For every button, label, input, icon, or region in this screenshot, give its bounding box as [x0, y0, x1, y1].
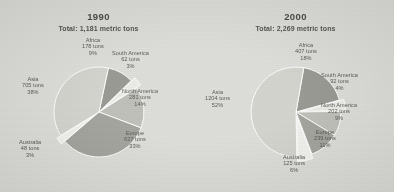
pie-label-europe-2000: Europe 239 tons 11% [314, 129, 336, 148]
pie-label-australia-1990: Australia 48 tons 3% [19, 139, 41, 158]
label-tons: 627 tons [124, 136, 146, 142]
pie-label-europe-1990: Europe 627 tons 33% [124, 130, 146, 149]
chart-title-1990: 1990 [0, 11, 197, 22]
label-tons: 705 tons [22, 82, 44, 88]
pie-label-north-america-2000: North America 202 tons 9% [321, 102, 357, 121]
pie-chart-1990 [45, 58, 153, 166]
label-percent: 11% [314, 142, 336, 148]
label-percent: 6% [283, 167, 305, 173]
label-percent: 18% [295, 55, 317, 61]
label-percent: 9% [82, 50, 104, 56]
pie-label-asia-2000: Asia 1204 tons 52% [205, 89, 230, 108]
pie-label-north-america-1990: North America 281 tons 14% [122, 88, 158, 107]
label-percent: 3% [112, 63, 149, 69]
label-percent: 38% [22, 89, 44, 95]
pie-label-south-america-2000: South America 92 tons 4% [321, 72, 358, 91]
pie-panel-2000: 2000 Total: 2,269 metric tons Africa 407… [197, 0, 394, 192]
label-tons: 1204 tons [205, 95, 230, 101]
chart-title-2000: 2000 [197, 11, 394, 22]
pie-label-africa-1990: Africa 178 tons 9% [82, 37, 104, 56]
label-percent: 4% [321, 85, 358, 91]
pie-label-africa-2000: Africa 407 tons 18% [295, 42, 317, 61]
label-tons: 48 tons [19, 145, 41, 151]
two-pie-figure: 1990 Total: 1,181 metric tons Africa 178… [0, 0, 394, 192]
label-tons: 239 tons [314, 135, 336, 141]
label-tons: 178 tons [82, 43, 104, 49]
label-tons: 407 tons [295, 48, 317, 54]
label-tons: 125 tons [283, 160, 305, 166]
pie-panel-1990: 1990 Total: 1,181 metric tons Africa 178… [0, 0, 197, 192]
pie-label-asia-1990: Asia 705 tons 38% [22, 76, 44, 95]
pie-svg-1990 [45, 58, 153, 166]
label-percent: 52% [205, 102, 230, 108]
chart-subtitle-2000: Total: 2,269 metric tons [197, 25, 394, 32]
label-percent: 3% [19, 152, 41, 158]
pie-label-south-america-1990: South America 62 tons 3% [112, 50, 149, 69]
chart-subtitle-1990: Total: 1,181 metric tons [0, 25, 197, 32]
label-percent: 9% [321, 115, 357, 121]
label-percent: 33% [124, 143, 146, 149]
pie-label-australia-2000: Australia 125 tons 6% [283, 154, 305, 173]
label-percent: 14% [122, 101, 158, 107]
pie-slice-asia [251, 67, 304, 157]
